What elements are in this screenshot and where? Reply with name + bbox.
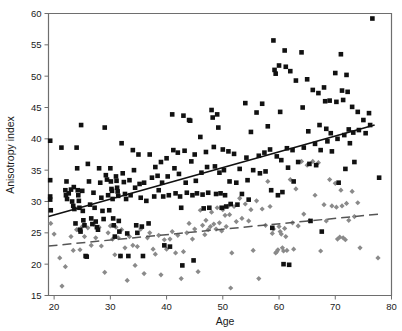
data-point-square	[114, 174, 119, 179]
data-point-square	[183, 180, 188, 185]
data-point-square	[65, 197, 70, 202]
data-point-square	[254, 110, 259, 115]
data-point-square	[113, 234, 118, 239]
data-point-square	[322, 85, 327, 90]
data-point-square	[198, 135, 203, 140]
data-point-square	[124, 197, 129, 202]
data-point-square	[79, 123, 84, 128]
y-tick-label: 30	[31, 196, 42, 207]
x-tick-label: 70	[330, 301, 341, 312]
data-point-square	[226, 149, 231, 154]
data-point-square	[355, 110, 360, 115]
data-point-square	[263, 169, 268, 174]
data-point-square	[117, 229, 122, 234]
data-point-square	[81, 218, 86, 223]
y-tick-label: 60	[31, 8, 42, 19]
x-tick-label: 30	[105, 301, 116, 312]
data-point-square	[173, 191, 178, 196]
data-point-square	[237, 167, 242, 172]
data-point-square	[317, 123, 322, 128]
data-point-square	[227, 179, 232, 184]
data-point-square	[155, 174, 160, 179]
data-point-square	[269, 188, 274, 193]
data-point-square	[120, 171, 125, 176]
data-point-square	[181, 113, 186, 118]
data-point-square	[107, 208, 112, 213]
data-point-square	[228, 202, 233, 207]
data-point-square	[167, 193, 172, 198]
data-point-square	[265, 124, 270, 129]
y-axis-title: Anisotropy index	[4, 115, 16, 193]
x-tick-label: 60	[274, 301, 285, 312]
data-point-square	[288, 69, 293, 74]
data-point-square	[217, 170, 222, 175]
data-point-square	[243, 101, 248, 106]
data-point-square	[150, 175, 155, 180]
data-point-square	[205, 165, 210, 170]
data-point-square	[234, 180, 239, 185]
y-tick-label: 45	[31, 102, 42, 113]
data-point-square	[319, 229, 324, 234]
data-point-square	[104, 173, 109, 178]
x-tick-label: 50	[218, 301, 229, 312]
data-point-square	[147, 152, 152, 157]
data-point-square	[48, 178, 53, 183]
data-point-square	[333, 71, 338, 76]
data-point-square	[81, 209, 86, 214]
data-point-square	[308, 219, 313, 224]
data-point-square	[314, 163, 319, 168]
data-point-square	[299, 50, 304, 55]
data-point-square	[188, 118, 193, 123]
data-point-square	[106, 193, 111, 198]
data-point-square	[291, 179, 296, 184]
data-point-square	[328, 131, 333, 136]
data-point-square	[343, 167, 348, 172]
data-point-square	[219, 205, 224, 210]
data-point-square	[201, 206, 206, 211]
data-point-square	[156, 188, 161, 193]
data-point-square	[327, 98, 332, 103]
data-point-square	[133, 185, 138, 190]
data-point-square	[87, 179, 92, 184]
data-point-square	[189, 159, 194, 164]
x-tick-label: 80	[386, 301, 397, 312]
data-point-square	[323, 99, 328, 104]
data-point-square	[282, 48, 287, 53]
data-point-square	[102, 125, 107, 130]
data-point-square	[73, 221, 78, 226]
data-point-square	[224, 204, 229, 209]
data-point-square	[76, 193, 81, 198]
data-point-square	[245, 178, 250, 183]
data-point-square	[75, 188, 80, 193]
data-point-square	[204, 150, 209, 155]
data-point-square	[177, 172, 182, 177]
data-point-square	[153, 165, 158, 170]
data-point-square	[216, 125, 221, 130]
data-point-square	[244, 155, 249, 160]
data-point-square	[140, 224, 145, 229]
data-point-square	[279, 158, 284, 163]
data-point-square	[251, 168, 256, 173]
data-point-square	[77, 199, 82, 204]
data-point-square	[114, 179, 119, 184]
data-point-square	[159, 160, 164, 165]
data-point-square	[192, 152, 197, 157]
data-point-square	[82, 223, 87, 228]
data-point-square	[339, 52, 344, 57]
data-point-square	[271, 38, 276, 43]
data-point-square	[105, 177, 110, 182]
data-point-square	[74, 145, 79, 150]
data-point-square	[98, 180, 103, 185]
y-tick-label: 40	[31, 133, 42, 144]
data-point-square	[377, 175, 382, 180]
data-point-square	[370, 16, 375, 21]
data-point-square	[249, 130, 254, 135]
data-point-square	[283, 64, 288, 69]
data-point-square	[180, 263, 185, 268]
y-tick-label: 20	[31, 259, 42, 270]
data-point-square	[78, 229, 83, 234]
data-point-square	[48, 208, 53, 213]
data-point-square	[100, 209, 105, 214]
data-point-square	[144, 199, 149, 204]
data-point-square	[142, 180, 147, 185]
